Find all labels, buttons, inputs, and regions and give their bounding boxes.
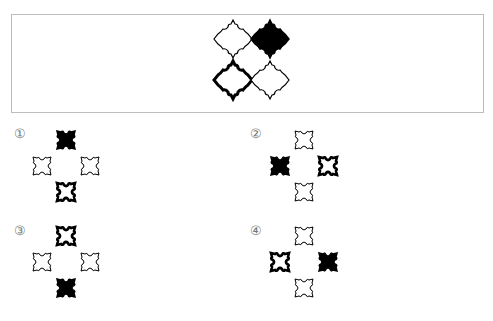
option-1-net[interactable] xyxy=(28,126,104,206)
tile-bottom-left xyxy=(213,60,253,100)
tile-top-left xyxy=(213,19,253,59)
option-3-label[interactable]: ③ xyxy=(14,224,26,238)
option-4-label[interactable]: ④ xyxy=(250,224,262,238)
tile-bottom-right xyxy=(250,60,290,100)
option-4-net[interactable] xyxy=(266,222,342,302)
option-2-net[interactable] xyxy=(266,126,342,206)
question-box xyxy=(11,14,484,113)
option-3-net[interactable] xyxy=(28,222,104,302)
tile-top-right xyxy=(250,19,290,59)
option-1-label[interactable]: ① xyxy=(14,127,26,141)
option-2-label[interactable]: ② xyxy=(250,127,262,141)
